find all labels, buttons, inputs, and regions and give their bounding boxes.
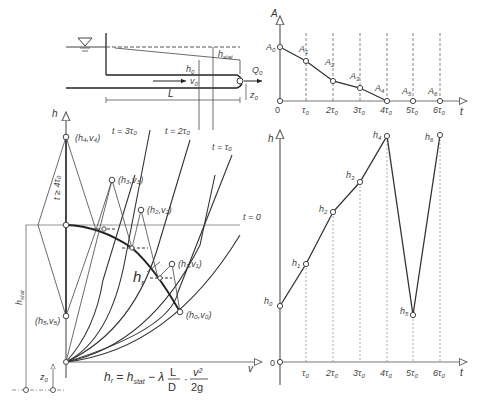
svg-text:h4: h4 [373,130,382,141]
svg-text:A3: A3 [349,71,360,82]
svg-text:2g: 2g [191,381,203,393]
svg-text:D: D [168,381,176,393]
Q0-label: Q0 [252,65,263,76]
svg-text:A5: A5 [401,86,412,97]
svg-text:A1: A1 [298,44,308,55]
hr-label: hr [133,268,144,287]
throttle-formula: hr = hstat − λ L D · v² 2g [104,366,208,393]
hstat-label: hstat [218,49,233,60]
svg-text:4τ0: 4τ0 [380,368,392,379]
svg-text:5τ0: 5τ0 [406,368,418,379]
svg-text:A4: A4 [374,83,385,94]
svg-text:6τ0: 6τ0 [433,105,445,116]
svg-text:0: 0 [275,105,280,115]
A-axis-label: A [270,8,278,19]
t-axis-label: t [460,106,464,117]
state-p2-label: (h₂,v₂) [147,205,172,215]
svg-text:6τ0: 6τ0 [433,368,445,379]
svg-text:hr = hstat − λ: hr = hstat − λ [104,370,164,385]
svg-text:L: L [170,366,176,378]
water-level-icon [78,38,92,51]
svg-text:h5: h5 [400,306,409,317]
valve-opening-chart: A t A0 A1 A2 A3 A4 A5 A6 0 τ0 2τ0 3τ0 4τ… [265,8,467,117]
state-p3-label: (h₃,v₃) [118,175,143,185]
svg-text:2τ0: 2τ0 [325,368,338,379]
L-label: L [168,88,174,99]
h0-label: h0 [186,64,195,75]
svg-text:4τ0: 4τ0 [380,105,392,116]
t-axis-label: t [460,367,464,378]
svg-text:t = 2τ₀: t = 2τ₀ [165,126,190,136]
svg-text:h1: h1 [292,258,300,269]
state-p5-label: (h₅,v₅) [35,316,60,326]
z0-dim-label: z0 [39,372,49,383]
z0-label: z0 [249,90,259,101]
h-axis-label: h [268,133,274,144]
svg-text:v²: v² [193,366,203,378]
svg-text:5τ0: 5τ0 [406,105,418,116]
svg-text:h6: h6 [425,132,434,143]
svg-text:τ0: τ0 [302,105,309,116]
pressure-head-chart: h t h0 h1 h2 h3 h4 h5 h6 0 τ0 2τ0 3τ0 4τ… [264,130,467,385]
svg-text:t = 0: t = 0 [243,212,261,222]
state-p0-label: (h₀,v₀) [186,310,212,320]
v0-label: v0 [190,76,199,87]
svg-text:2τ0: 2τ0 [325,105,338,116]
svg-text:h0: h0 [264,296,273,307]
svg-text:t ≥ 4τ₀: t ≥ 4τ₀ [52,175,62,200]
state-p4-label: (h₄,v₄) [75,133,100,143]
svg-text:·: · [184,373,188,385]
svg-text:3τ0: 3τ0 [353,105,365,116]
svg-text:A6: A6 [427,86,438,97]
svg-text:A0: A0 [265,42,276,53]
svg-text:h2: h2 [319,204,328,215]
svg-text:τ0: τ0 [302,368,309,379]
state-p1-label: (h₁,v₁) [178,259,202,269]
characteristics-diagram: h v [12,108,262,393]
svg-text:h3: h3 [346,170,355,181]
water-hammer-diagram: v0 Q0 z0 h0 hstat L A t [0,0,483,407]
svg-text:t = 3τ₀: t = 3τ₀ [112,126,137,136]
svg-text:3τ0: 3τ0 [353,368,365,379]
valve-icon [237,78,243,84]
h-axis-label: h [52,108,58,119]
hstat-dim-label: hstat [14,290,25,305]
pipe-schematic: v0 Q0 z0 h0 hstat L [66,33,263,130]
svg-text:t = τ₀: t = τ₀ [212,142,232,152]
svg-text:0: 0 [270,358,275,368]
v-axis-label: v [248,363,254,374]
